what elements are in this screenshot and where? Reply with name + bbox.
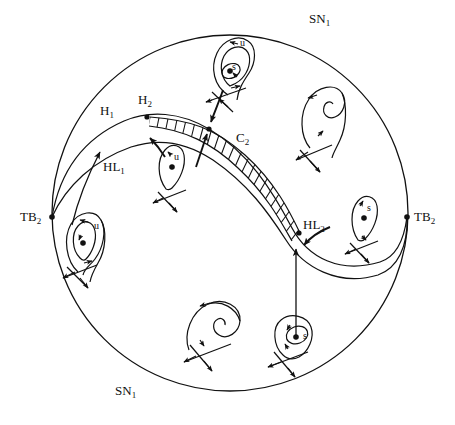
marker-s-bottom-right-portrait: s	[303, 331, 307, 341]
label-sn1-top: SN1	[309, 12, 330, 25]
marker-s-top-portrait: s	[232, 62, 236, 72]
label-hl1: HL1	[103, 160, 125, 173]
label-h2-sub: 2	[147, 99, 152, 109]
label-sn1-bottom-sub: 1	[132, 390, 137, 400]
label-hl1-text: HL	[103, 159, 120, 174]
point-tb2-left	[49, 214, 55, 220]
label-h1-text: H	[100, 103, 109, 118]
label-h1-sub: 1	[109, 110, 114, 120]
label-tb2-left: TB2	[20, 210, 41, 223]
portrait-top-right	[296, 87, 346, 172]
portrait-bottom-right	[268, 316, 312, 377]
pointer-arrow-c2-upper	[211, 90, 223, 122]
label-c2-sub: 2	[245, 137, 250, 147]
label-h1: H1	[100, 104, 114, 117]
label-hl2-text: HL	[303, 217, 320, 232]
label-sn1-bottom-text: SN	[115, 383, 132, 398]
label-h2-text: H	[138, 92, 147, 107]
label-hl2: HL2	[303, 218, 325, 231]
bifurcation-diagram	[0, 0, 455, 425]
hopf-curve	[52, 114, 407, 266]
portrait-bottom-left	[184, 302, 240, 371]
label-sn1-bottom: SN1	[115, 384, 136, 397]
label-tb2-left-sub: 2	[37, 216, 42, 226]
marker-u-mid-left-portrait: u	[174, 152, 179, 162]
point-c2	[206, 126, 211, 131]
label-c2-text: C	[236, 130, 245, 145]
label-hl1-sub: 1	[120, 166, 125, 176]
marker-u-left-portrait: u	[94, 221, 99, 231]
boundary-circle	[52, 35, 408, 391]
label-tb2-right: TB2	[414, 210, 435, 223]
marker-s-right-portrait: s	[367, 203, 371, 213]
label-hl2-sub: 2	[320, 224, 325, 234]
portrait-right	[345, 196, 378, 263]
label-tb2-right-text: TB	[414, 209, 431, 224]
portrait-mid-left	[153, 145, 186, 212]
label-tb2-left-text: TB	[20, 209, 37, 224]
label-c2: C2	[236, 131, 249, 144]
portrait-top-center	[206, 38, 255, 112]
point-hl2	[296, 230, 301, 235]
label-sn1-top-text: SN	[309, 11, 326, 26]
label-tb2-right-sub: 2	[431, 216, 436, 226]
point-tb2-right	[404, 214, 410, 220]
label-sn1-top-sub: 1	[326, 18, 331, 28]
marker-u-top-portrait: u	[240, 38, 245, 48]
label-h2: H2	[138, 93, 152, 106]
point-h2	[144, 114, 149, 119]
